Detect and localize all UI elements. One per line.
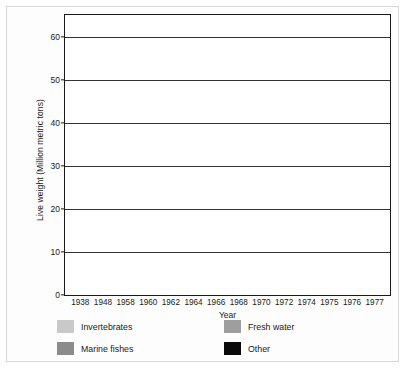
legend-swatch bbox=[224, 320, 241, 333]
legend-swatch bbox=[57, 320, 74, 333]
bar-column bbox=[228, 15, 251, 295]
x-axis-tick-labels: 1938194819581960196219641966196819701972… bbox=[64, 298, 391, 307]
bar-column bbox=[340, 15, 363, 295]
x-axis-tick-label: 1964 bbox=[182, 298, 205, 307]
bar-column bbox=[250, 15, 273, 295]
y-axis-tick-label: 60 bbox=[51, 32, 60, 41]
chart-legend: InvertebratesFresh waterMarine fishesOth… bbox=[57, 320, 387, 355]
y-axis-tick-label: 20 bbox=[51, 205, 60, 214]
bar-column bbox=[205, 15, 228, 295]
bar-column bbox=[295, 15, 318, 295]
y-axis-title: Live weight (Million metric tons) bbox=[35, 65, 45, 255]
legend-label: Other bbox=[248, 344, 270, 354]
bar-column bbox=[183, 15, 206, 295]
x-axis-tick-label: 1972 bbox=[273, 298, 296, 307]
plot-area: 0102030405060 bbox=[64, 14, 391, 296]
y-axis-tick-label: 40 bbox=[51, 118, 60, 127]
x-axis-tick-label: 1960 bbox=[137, 298, 160, 307]
bar-column bbox=[273, 15, 296, 295]
bar-group bbox=[65, 15, 390, 295]
legend-item: Other bbox=[224, 342, 387, 355]
bar-column bbox=[318, 15, 341, 295]
x-axis-tick-label: 1948 bbox=[92, 298, 115, 307]
x-axis-title: Year bbox=[64, 310, 391, 320]
x-axis-tick-label: 1938 bbox=[69, 298, 92, 307]
legend-item: Fresh water bbox=[224, 320, 387, 333]
legend-swatch bbox=[57, 342, 74, 355]
legend-label: Fresh water bbox=[248, 322, 294, 332]
x-axis-tick-label: 1974 bbox=[295, 298, 318, 307]
x-axis-tick-label: 1966 bbox=[205, 298, 228, 307]
legend-item: Invertebrates bbox=[57, 320, 220, 333]
x-axis-tick-label: 1977 bbox=[363, 298, 386, 307]
legend-label: Marine fishes bbox=[81, 344, 133, 354]
x-axis-tick-label: 1958 bbox=[114, 298, 137, 307]
legend-label: Invertebrates bbox=[81, 322, 132, 332]
y-axis-tick-label: 50 bbox=[51, 75, 60, 84]
y-axis-tick-label: 10 bbox=[51, 248, 60, 257]
legend-swatch bbox=[224, 342, 241, 355]
legend-item: Marine fishes bbox=[57, 342, 220, 355]
y-axis-tick-label: 30 bbox=[51, 162, 60, 171]
x-axis-tick-label: 1976 bbox=[341, 298, 364, 307]
chart-figure: Live weight (Million metric tons) 010203… bbox=[6, 6, 399, 362]
bar-column bbox=[363, 15, 386, 295]
bar-column bbox=[138, 15, 161, 295]
x-axis-tick-label: 1962 bbox=[160, 298, 183, 307]
x-axis-tick-label: 1975 bbox=[318, 298, 341, 307]
y-axis-tick-label: 0 bbox=[55, 291, 60, 300]
x-axis-tick-label: 1968 bbox=[227, 298, 250, 307]
x-axis-tick-label: 1970 bbox=[250, 298, 273, 307]
bar-column bbox=[70, 15, 93, 295]
bar-column bbox=[93, 15, 116, 295]
bar-column bbox=[115, 15, 138, 295]
bar-column bbox=[160, 15, 183, 295]
